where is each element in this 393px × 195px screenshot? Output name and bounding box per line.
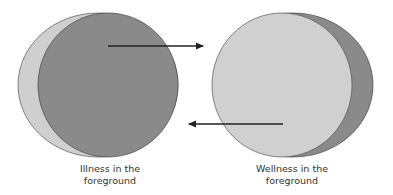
wellness-circle-group [212, 13, 373, 157]
wellness-caption-line2: foreground [232, 175, 352, 187]
illness-circle-group [18, 13, 178, 157]
illness-caption: Illness in the foreground [50, 163, 170, 187]
wellness-front-circle [212, 13, 352, 157]
illness-caption-line1: Illness in the [50, 163, 170, 175]
illness-caption-line2: foreground [50, 175, 170, 187]
illness-front-circle [38, 13, 178, 157]
wellness-caption: Wellness in the foreground [232, 163, 352, 187]
wellness-caption-line1: Wellness in the [232, 163, 352, 175]
